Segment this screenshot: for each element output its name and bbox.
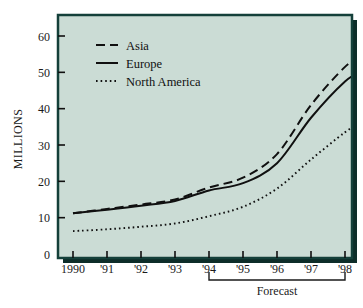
y-tick-label: 40: [38, 102, 50, 116]
x-tick-label: '95: [236, 262, 250, 276]
x-tick-label: '96: [270, 262, 284, 276]
x-tick-label: 1990: [61, 262, 85, 276]
forecast-label: Forecast: [257, 284, 298, 298]
x-tick-label: '92: [134, 262, 148, 276]
x-tick-label: '93: [168, 262, 182, 276]
line-chart: 0102030405060 1990'91'92'93'94'95'96'97'…: [0, 0, 363, 308]
y-axis-title: MILLIONS: [11, 109, 25, 170]
legend-label-asia: Asia: [126, 39, 149, 53]
y-tick-label: 0: [44, 248, 50, 262]
legend-label-north-america: North America: [126, 75, 201, 89]
y-tick-label: 60: [38, 30, 50, 44]
chart-page: 0102030405060 1990'91'92'93'94'95'96'97'…: [0, 0, 363, 308]
y-tick-label: 10: [38, 211, 50, 225]
x-tick-label: '97: [304, 262, 318, 276]
plot-background: [58, 15, 352, 258]
y-tick-label: 20: [38, 175, 50, 189]
legend-label-europe: Europe: [126, 57, 163, 71]
y-tick-label: 50: [38, 66, 50, 80]
y-tick-label: 30: [38, 139, 50, 153]
x-tick-label: '91: [100, 262, 114, 276]
